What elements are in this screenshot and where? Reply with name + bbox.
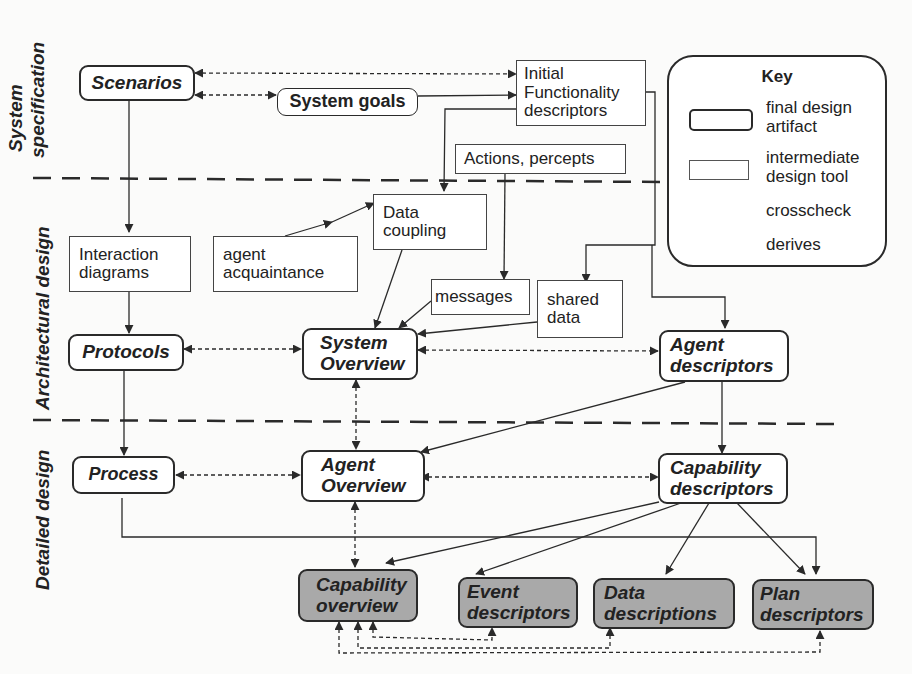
design-process-diagram: specification System Architectural desig…: [0, 0, 912, 674]
node-scenarios[interactable]: Scenarios: [79, 65, 195, 101]
legend-label-line: final design: [766, 99, 852, 118]
phase-label-architectural-design: Architectural design: [33, 226, 53, 410]
legend-label-line: intermediate: [766, 149, 860, 168]
node-label-line: Capability: [670, 458, 761, 479]
node-process[interactable]: Process: [72, 456, 175, 494]
node-label-line: coupling: [383, 222, 486, 240]
node-label-line: acquaintance: [223, 264, 357, 282]
legend-title: Key: [669, 67, 885, 87]
node-label-line: descriptors: [760, 605, 863, 626]
node-label-line: diagrams: [79, 264, 190, 282]
node-shared-data[interactable]: shared data: [537, 280, 623, 338]
node-system-goals[interactable]: System goals: [277, 88, 418, 116]
node-label-line: descriptors: [670, 479, 773, 500]
phase-label-detailed-design: Detailed design: [33, 450, 53, 590]
node-plan-descriptors[interactable]: Plan descriptors: [752, 579, 874, 630]
node-interaction-diagrams[interactable]: Interaction diagrams: [69, 236, 191, 292]
node-label-line: Functionality: [524, 84, 645, 102]
legend-intermediate-tool-label: intermediate design tool: [766, 149, 860, 186]
phase-label-text: Architectural design: [32, 226, 53, 410]
legend-final-artifact-swatch: [689, 109, 753, 131]
phase-label-line: specification: [28, 42, 48, 158]
node-label-line: Overview: [320, 354, 405, 375]
node-label-line: Event: [467, 582, 519, 603]
node-label-line: descriptors: [467, 603, 570, 624]
node-initial-functionality-descriptors[interactable]: Initial Functionality descriptors: [516, 60, 646, 126]
node-data-coupling[interactable]: Data coupling: [373, 194, 487, 250]
node-label-line: Data: [604, 583, 645, 604]
node-label: System goals: [289, 92, 405, 111]
legend-label-line: design tool: [766, 168, 860, 187]
node-label-line: System: [320, 333, 388, 354]
node-data-descriptions[interactable]: Data descriptions: [593, 578, 735, 629]
node-label: Process: [88, 465, 158, 484]
node-messages[interactable]: messages: [431, 279, 530, 315]
node-label-line: Capability: [316, 575, 407, 596]
node-label: Scenarios: [92, 73, 183, 94]
phase-label-text: Detailed design: [32, 450, 53, 590]
node-label-line: Agent: [321, 455, 375, 476]
node-label-line: Initial: [524, 65, 645, 83]
legend-key: Key final design artifact intermediate d…: [667, 55, 887, 267]
node-label-line: Agent: [670, 335, 724, 356]
node-label-line: Data: [383, 204, 486, 222]
node-label-line: shared: [547, 291, 622, 309]
legend-derives-label: derives: [766, 236, 821, 255]
node-actions-percepts[interactable]: Actions, percepts: [455, 144, 626, 174]
phase-label-system-specification: specification: [28, 42, 48, 158]
legend-label-line: artifact: [766, 118, 852, 137]
legend-crosscheck-label: crosscheck: [766, 202, 851, 221]
node-capability-overview[interactable]: Capability overview: [298, 569, 418, 622]
node-label-line: Overview: [321, 476, 406, 497]
node-label-line: Interaction: [79, 246, 190, 264]
node-label: Protocols: [82, 342, 170, 363]
node-label-line: descriptors: [670, 356, 773, 377]
node-label-line: descriptors: [524, 102, 645, 120]
node-event-descriptors[interactable]: Event descriptors: [458, 577, 578, 628]
node-label-line: overview: [316, 596, 397, 617]
node-label-line: data: [547, 309, 622, 327]
node-agent-acquaintance[interactable]: agent acquaintance: [213, 236, 358, 292]
node-label: messages: [435, 288, 529, 306]
phase-label-system: System: [6, 84, 26, 152]
node-agent-descriptors[interactable]: Agent descriptors: [659, 330, 789, 382]
legend-intermediate-tool-swatch: [689, 160, 749, 180]
node-protocols[interactable]: Protocols: [68, 334, 184, 371]
node-capability-descriptors[interactable]: Capability descriptors: [658, 453, 788, 504]
node-label: Actions, percepts: [464, 150, 625, 168]
node-label-line: descriptions: [604, 604, 717, 625]
node-label-line: Plan: [760, 584, 800, 605]
node-agent-overview[interactable]: Agent Overview: [301, 450, 425, 502]
node-system-overview[interactable]: System Overview: [302, 328, 418, 380]
phase-label-line: System: [5, 84, 26, 152]
node-label-line: agent: [223, 246, 357, 264]
legend-final-artifact-label: final design artifact: [766, 99, 852, 136]
